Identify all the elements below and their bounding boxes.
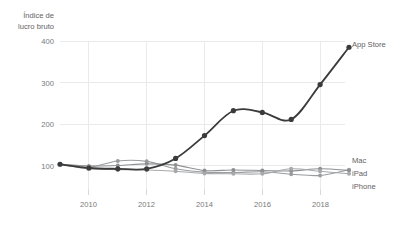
data-point[interactable] (289, 117, 294, 122)
data-point[interactable] (144, 166, 149, 171)
y-tick-label-100: 100 (41, 162, 54, 171)
data-point[interactable] (260, 172, 264, 176)
vertical-gridlines (89, 41, 321, 189)
data-point[interactable] (57, 162, 62, 167)
data-point[interactable] (231, 172, 235, 176)
data-point[interactable] (115, 166, 120, 171)
horizontal-gridlines (60, 41, 345, 166)
series-label-app-store: App Store (352, 40, 386, 49)
line-chart: Índice de lucro bruto 400 300 200 100 20… (0, 0, 400, 226)
data-point[interactable] (174, 163, 178, 167)
series-label-ipad: iPad (352, 169, 367, 178)
x-tick-marks (89, 189, 321, 195)
data-point[interactable] (203, 171, 207, 175)
x-tick-label-2016: 2016 (254, 200, 271, 209)
data-point[interactable] (289, 167, 293, 171)
data-point[interactable] (347, 172, 351, 176)
y-axis-title-line2: lucro bruto (18, 22, 54, 31)
data-point[interactable] (260, 110, 265, 115)
data-point[interactable] (318, 169, 322, 173)
y-axis-title-line1: Índice de (23, 11, 54, 20)
y-tick-label-400: 400 (41, 37, 54, 46)
data-point[interactable] (202, 133, 207, 138)
series-label-mac: Mac (352, 156, 367, 165)
data-point[interactable] (86, 165, 91, 170)
data-point[interactable] (173, 156, 178, 161)
data-point[interactable] (174, 169, 178, 173)
data-point[interactable] (145, 162, 149, 166)
y-tick-label-300: 300 (41, 79, 54, 88)
data-point[interactable] (318, 173, 322, 177)
x-tick-label-2012: 2012 (138, 200, 155, 209)
data-point[interactable] (346, 45, 351, 50)
data-point[interactable] (116, 159, 120, 163)
data-point[interactable] (318, 82, 323, 87)
data-point[interactable] (231, 108, 236, 113)
x-tick-label-2010: 2010 (80, 200, 97, 209)
series-label-iphone: iPhone (352, 182, 376, 191)
data-point[interactable] (231, 168, 235, 172)
x-tick-label-2014: 2014 (196, 200, 213, 209)
x-tick-label-2018: 2018 (312, 200, 329, 209)
chart-container: Índice de lucro bruto 400 300 200 100 20… (0, 0, 400, 226)
y-tick-label-200: 200 (41, 120, 54, 129)
